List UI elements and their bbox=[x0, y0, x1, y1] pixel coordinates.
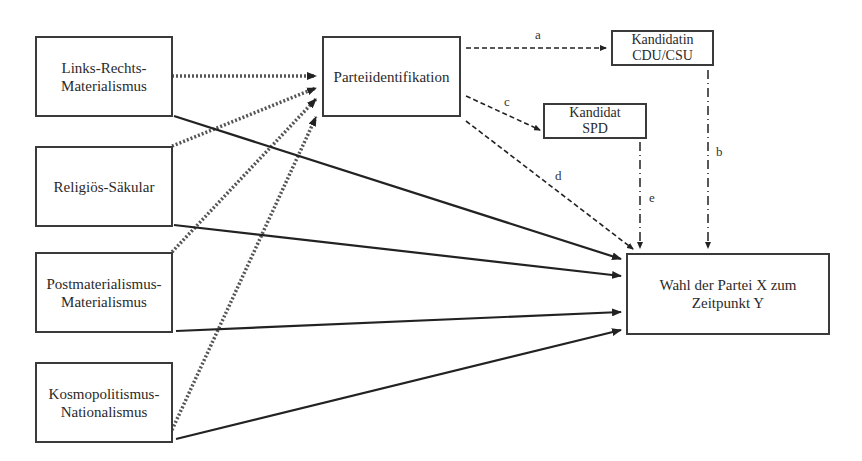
edge-c bbox=[466, 96, 540, 130]
node-text-line2: SPD bbox=[582, 121, 608, 137]
node-text-line2: Materialismus bbox=[61, 293, 147, 311]
node-text-line1: Postmaterialismus- bbox=[47, 275, 162, 293]
node-text-line1: Kandidat bbox=[569, 105, 620, 121]
node-wahl-der-partei: Wahl der Partei X zum Zeitpunkt Y bbox=[626, 253, 830, 335]
dashed-edges bbox=[466, 48, 633, 249]
edge-label-a: a bbox=[535, 27, 541, 43]
solid-edges bbox=[174, 116, 621, 439]
edge-label-b: b bbox=[716, 144, 723, 160]
node-kandidat-spd: Kandidat SPD bbox=[543, 103, 647, 139]
edge-postmat-to-wahl bbox=[176, 312, 621, 331]
node-postmaterialismus-materialismus: Postmaterialismus- Materialismus bbox=[35, 252, 173, 333]
node-links-rechts-materialismus: Links-Rechts- Materialismus bbox=[35, 36, 173, 117]
dotted-edges bbox=[172, 76, 316, 430]
edge-label-c: c bbox=[504, 94, 510, 110]
node-text-line1: Kandidatin bbox=[631, 32, 693, 48]
node-text-line1: Kosmopolitismus- bbox=[49, 385, 160, 403]
edge-label-e: e bbox=[649, 190, 655, 206]
node-kosmopolitismus-nationalismus: Kosmopolitismus- Nationalismus bbox=[35, 362, 173, 443]
dashdot-edges bbox=[640, 70, 708, 248]
node-text-line2: Nationalismus bbox=[61, 403, 148, 421]
node-text-line2: CDU/CSU bbox=[632, 48, 693, 64]
edge-label-d: d bbox=[555, 168, 562, 184]
node-text-line1: Links-Rechts- bbox=[62, 59, 147, 77]
edge-religioes-to-wahl bbox=[174, 225, 621, 276]
node-religioes-saekular: Religiös-Säkular bbox=[35, 146, 173, 227]
node-text-line1: Parteiidentifikation bbox=[334, 68, 450, 86]
edge-kosmo-to-parteiid bbox=[172, 117, 316, 430]
node-text-line2: Materialismus bbox=[61, 77, 147, 95]
node-text-line1: Religiös-Säkular bbox=[54, 178, 155, 196]
node-kandidatin-cdu-csu: Kandidatin CDU/CSU bbox=[611, 30, 714, 66]
node-text-line2: Zeitpunkt Y bbox=[692, 294, 764, 312]
node-text-line1: Wahl der Partei X zum bbox=[659, 276, 796, 294]
node-parteiidentifikation: Parteiidentifikation bbox=[322, 36, 461, 117]
edge-kosmo-to-wahl bbox=[176, 330, 621, 439]
edge-d bbox=[466, 121, 633, 249]
